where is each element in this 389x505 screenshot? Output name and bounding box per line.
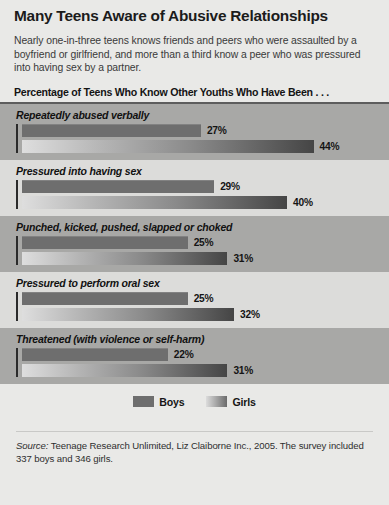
bar-group-axis: 25%31% [16, 236, 389, 265]
bar-row: 31% [22, 364, 389, 377]
bar-group: Threatened (with violence or self-harm)2… [0, 328, 389, 384]
bar-value-label: 27% [207, 125, 227, 136]
bar-group-axis: 22%31% [16, 348, 389, 377]
bar-row: 44% [22, 140, 389, 153]
bar-girls [22, 196, 287, 209]
bar-value-label: 29% [220, 181, 240, 192]
bar-group-label: Threatened (with violence or self-harm) [0, 332, 389, 348]
bar-boys [22, 124, 201, 137]
header-block: Many Teens Aware of Abusive Relationship… [0, 0, 389, 102]
bar-group: Pressured into having sex29%40% [0, 160, 389, 216]
bar-group-label: Pressured into having sex [0, 164, 389, 180]
bar-value-label: 25% [194, 293, 214, 304]
bar-row: 25% [22, 236, 389, 249]
chart-subtitle: Nearly one-in-three teens knows friends … [14, 34, 375, 75]
legend-label-girls: Girls [232, 396, 255, 408]
bar-row: 40% [22, 196, 389, 209]
legend-item-girls: Girls [206, 396, 255, 408]
section-heading: Percentage of Teens Who Know Other Youth… [14, 86, 375, 102]
bar-boys [22, 236, 188, 249]
bar-row: 31% [22, 252, 389, 265]
bar-value-label: 25% [194, 237, 214, 248]
source-text: Teenage Research Unlimited, Liz Claiborn… [16, 440, 364, 464]
bar-row: 32% [22, 308, 389, 321]
bar-group-label: Repeatedly abused verbally [0, 108, 389, 124]
legend-swatch-girls-icon [206, 396, 227, 407]
legend-swatch-boys-icon [133, 396, 154, 407]
legend-label-boys: Boys [159, 396, 184, 408]
footer-block: Source: Teenage Research Unlimited, Liz … [0, 418, 389, 465]
bar-group: Repeatedly abused verbally27%44% [0, 104, 389, 160]
bar-value-label: 32% [240, 309, 260, 320]
bar-value-label: 44% [320, 141, 340, 152]
legend-item-boys: Boys [133, 396, 184, 408]
bar-value-label: 22% [174, 349, 194, 360]
bar-group-axis: 25%32% [16, 292, 389, 321]
bar-girls [22, 308, 234, 321]
bar-group-axis: 29%40% [16, 180, 389, 209]
bar-value-label: 40% [293, 197, 313, 208]
bar-boys [22, 348, 168, 361]
bar-row: 27% [22, 124, 389, 137]
bar-value-label: 31% [233, 253, 253, 264]
bar-group: Pressured to perform oral sex25%32% [0, 272, 389, 328]
page-title: Many Teens Aware of Abusive Relationship… [14, 7, 375, 25]
bar-girls [22, 364, 227, 377]
bar-value-label: 31% [233, 365, 253, 376]
chart-legend: Boys Girls [0, 384, 389, 418]
bar-girls [22, 140, 314, 153]
bar-girls [22, 252, 227, 265]
source-label: Source: [16, 440, 48, 451]
bar-group-axis: 27%44% [16, 124, 389, 153]
source-note: Source: Teenage Research Unlimited, Liz … [16, 439, 373, 465]
bar-group-label: Punched, kicked, pushed, slapped or chok… [0, 220, 389, 236]
bar-groups-container: Repeatedly abused verbally27%44%Pressure… [0, 104, 389, 384]
bar-row: 25% [22, 292, 389, 305]
bar-row: 22% [22, 348, 389, 361]
bar-row: 29% [22, 180, 389, 193]
bar-boys [22, 292, 188, 305]
bar-group: Punched, kicked, pushed, slapped or chok… [0, 216, 389, 272]
footer-divider [16, 431, 373, 432]
bar-group-label: Pressured to perform oral sex [0, 276, 389, 292]
bar-boys [22, 180, 214, 193]
infographic-panel: Many Teens Aware of Abusive Relationship… [0, 0, 389, 505]
